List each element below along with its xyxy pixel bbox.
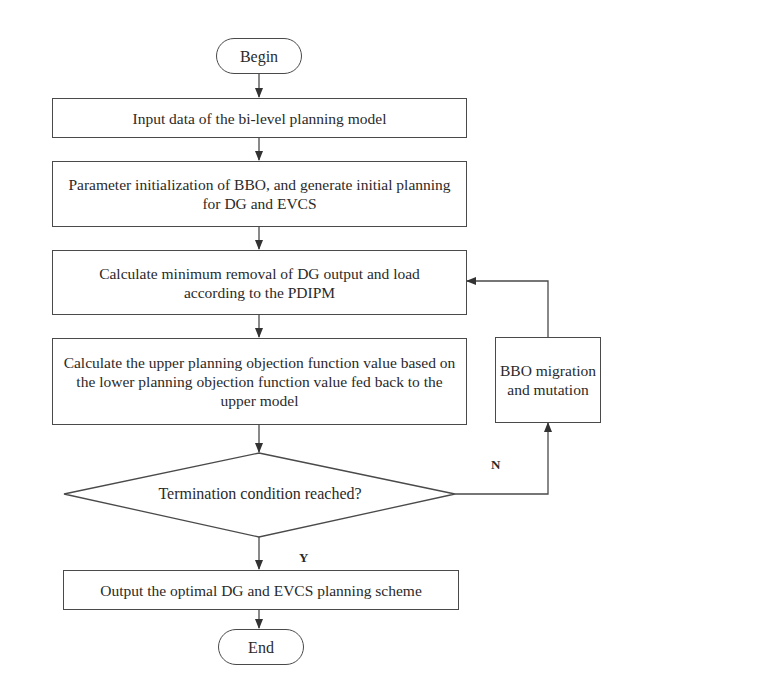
arrow-bbo-to-calc-min — [467, 281, 548, 337]
no-branch-label: N — [491, 457, 500, 473]
begin-label: Begin — [240, 47, 278, 66]
init-label: Parameter initialization of BBO, and gen… — [67, 175, 452, 213]
flowchart-canvas: Begin Input data of the bi-level plannin… — [0, 0, 781, 700]
input-data-step: Input data of the bi-level planning mode… — [52, 98, 467, 138]
init-step: Parameter initialization of BBO, and gen… — [52, 161, 467, 227]
input-data-label: Input data of the bi-level planning mode… — [133, 109, 387, 128]
calc-upper-step: Calculate the upper planning objection f… — [52, 338, 467, 425]
yes-branch-label: Y — [299, 550, 308, 566]
end-label: End — [248, 638, 274, 657]
output-label: Output the optimal DG and EVCS planning … — [100, 581, 422, 600]
termination-label: Termination condition reached? — [158, 485, 361, 503]
calc-min-removal-label: Calculate minimum removal of DG output a… — [67, 264, 452, 302]
bbo-migration-label: BBO migration and mutation — [498, 361, 598, 399]
bbo-migration-step: BBO migration and mutation — [495, 337, 601, 423]
cut-off-caption — [205, 690, 575, 700]
calc-min-removal-step: Calculate minimum removal of DG output a… — [52, 250, 467, 315]
begin-terminator: Begin — [216, 38, 302, 74]
output-step: Output the optimal DG and EVCS planning … — [63, 570, 459, 610]
calc-upper-label: Calculate the upper planning objection f… — [57, 353, 462, 410]
end-terminator: End — [218, 629, 304, 665]
termination-decision: Termination condition reached? — [110, 480, 410, 508]
arrow-decision-to-bbo — [455, 423, 548, 494]
